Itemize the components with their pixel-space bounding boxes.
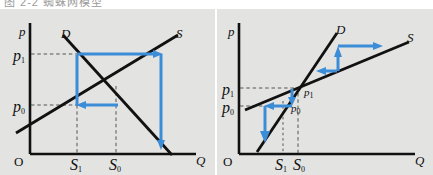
- price-tick-p0: p0: [222, 100, 234, 116]
- quantity-tick-s0: S0: [109, 157, 121, 173]
- quantity-tick-s0: S0: [293, 157, 305, 173]
- clipped-caption-text: 图 2-2 蜘蛛网模型: [4, 0, 103, 9]
- price-tick-p0-base: p: [13, 98, 21, 115]
- quantity-tick-s0-base: S: [109, 156, 117, 173]
- inline-price-label-p0-sub: 0: [297, 107, 301, 116]
- quantity-tick-s0-sub: 0: [301, 165, 305, 174]
- quantity-tick-s0-base: S: [293, 156, 301, 173]
- price-tick-p1-sub: 1: [21, 56, 25, 65]
- origin-label: O: [14, 155, 23, 168]
- quantity-tick-s1-base: S: [70, 156, 78, 173]
- cobweb-arrowhead-up-upper: [334, 46, 342, 57]
- supply-curve-label: S: [407, 31, 414, 44]
- cobweb-arrowhead-right-upper: [373, 42, 383, 50]
- quantity-tick-s1-sub: 1: [283, 165, 287, 174]
- price-tick-p0-base: p: [222, 99, 230, 116]
- supply-curve: [245, 42, 409, 110]
- quantity-tick-s1-sub: 1: [78, 165, 82, 174]
- price-tick-p1-base: p: [222, 81, 230, 98]
- price-tick-p0-sub: 0: [230, 108, 234, 117]
- inline-price-label-p0-base: p: [291, 102, 297, 114]
- supply-curve-label: S: [176, 27, 183, 40]
- y-axis-label: p: [228, 25, 235, 38]
- inline-price-label-p1-sub: 1: [310, 91, 314, 100]
- panel-right-divergent-cobweb: p Q O D S p1 p0 p1 p0 S1 S0: [217, 9, 433, 175]
- cobweb-model-figure: 图 2-2 蜘蛛网模型: [0, 0, 433, 175]
- quantity-tick-s1-base: S: [275, 156, 283, 173]
- x-axis-label: Q: [415, 154, 424, 167]
- price-tick-p1-base: p: [13, 47, 21, 64]
- inline-price-label-p1: p1: [304, 87, 314, 98]
- inline-price-label-p0: p0: [291, 103, 301, 114]
- price-tick-p1: p1: [13, 48, 25, 64]
- supply-curve: [16, 35, 178, 133]
- price-tick-p0-sub: 0: [21, 107, 25, 116]
- price-tick-p0: p0: [13, 99, 25, 115]
- y-axis-label: p: [19, 25, 26, 38]
- origin-label: O: [223, 155, 232, 168]
- price-tick-p1: p1: [222, 82, 234, 98]
- x-axis-label: Q: [196, 154, 205, 167]
- quantity-tick-s0-sub: 0: [117, 165, 121, 174]
- price-tick-p1-sub: 1: [230, 90, 234, 99]
- inline-price-label-p1-base: p: [304, 86, 310, 98]
- demand-curve: [257, 33, 337, 152]
- panel-right-plot: [217, 9, 433, 175]
- quantity-tick-s1: S1: [275, 157, 287, 173]
- demand-curve-label: D: [336, 23, 345, 36]
- quantity-tick-s1: S1: [70, 157, 82, 173]
- cobweb-arrowhead-left-upper: [316, 67, 326, 75]
- demand-curve-label: D: [61, 27, 70, 40]
- panel-left-divergent-cobweb: p Q O D S p1 p0 S1 S0: [0, 9, 215, 175]
- clipped-caption-strip: 图 2-2 蜘蛛网模型: [0, 0, 433, 9]
